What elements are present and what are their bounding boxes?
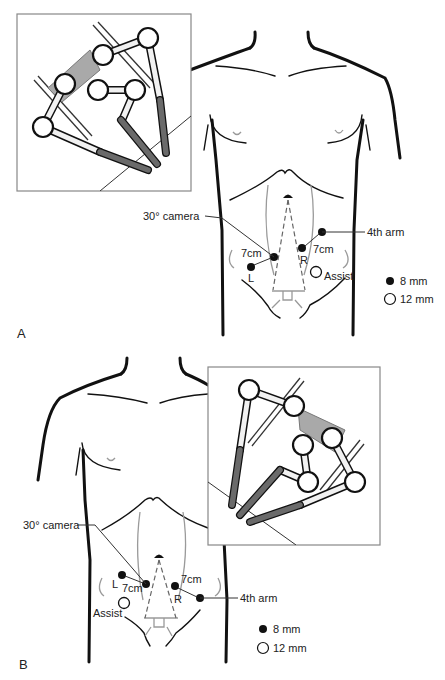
leader-camera-a bbox=[205, 216, 274, 257]
label-port-l-a: L bbox=[248, 272, 254, 284]
label-camera-a: 30° camera bbox=[143, 210, 200, 222]
panel-b: 30° camera 4th arm 7cm 7cm L R Assist 8 … bbox=[19, 358, 380, 672]
label-fourth-arm-b: 4th arm bbox=[240, 592, 277, 604]
torso-outline-a bbox=[190, 32, 400, 335]
port-right-b bbox=[171, 582, 179, 590]
filled-port-icon bbox=[386, 277, 394, 285]
svg-text:12 mm: 12 mm bbox=[400, 293, 434, 305]
port-placement-figure: 30° camera 4th arm 7cm 7cm L R Assist 8 … bbox=[0, 0, 445, 680]
label-port-r-a: R bbox=[300, 254, 308, 266]
open-port-icon bbox=[385, 294, 396, 305]
svg-text:8 mm: 8 mm bbox=[400, 275, 428, 287]
label-port-l-b: L bbox=[112, 578, 118, 590]
svg-text:8 mm: 8 mm bbox=[273, 623, 301, 635]
label-fourth-arm-a: 4th arm bbox=[367, 226, 404, 238]
port-right-a bbox=[298, 244, 306, 252]
camera-scope-icon-a bbox=[283, 195, 293, 199]
panel-letter-a: A bbox=[17, 326, 26, 341]
label-dist-right-a: 7cm bbox=[313, 243, 334, 255]
label-dist-right-b: 7cm bbox=[181, 573, 202, 585]
robot-inset-a bbox=[17, 14, 191, 191]
camera-scope-icon-b bbox=[154, 555, 164, 559]
port-left-b bbox=[118, 571, 126, 579]
label-port-r-b: R bbox=[174, 593, 182, 605]
panel-a: 30° camera 4th arm 7cm 7cm L R Assist 8 … bbox=[17, 14, 434, 341]
panel-letter-b: B bbox=[19, 657, 28, 672]
filled-port-icon bbox=[259, 625, 267, 633]
robot-inset-b bbox=[208, 367, 380, 545]
svg-text:12 mm: 12 mm bbox=[273, 642, 307, 654]
label-dist-left-a: 7cm bbox=[241, 247, 262, 259]
torso-outline-b bbox=[38, 358, 227, 662]
label-dist-left-b: 7cm bbox=[122, 582, 143, 594]
label-assist-b: Assist bbox=[93, 607, 122, 619]
port-assist-a bbox=[311, 267, 322, 278]
open-port-icon bbox=[258, 643, 269, 654]
label-camera-b: 30° camera bbox=[23, 519, 80, 531]
label-assist-a: Assist bbox=[324, 270, 353, 282]
legend-b: 8 mm 12 mm bbox=[258, 623, 307, 654]
port-left-a bbox=[247, 263, 255, 271]
legend-a: 8 mm 12 mm bbox=[385, 275, 434, 305]
distance-arrow-left-a bbox=[254, 258, 271, 265]
